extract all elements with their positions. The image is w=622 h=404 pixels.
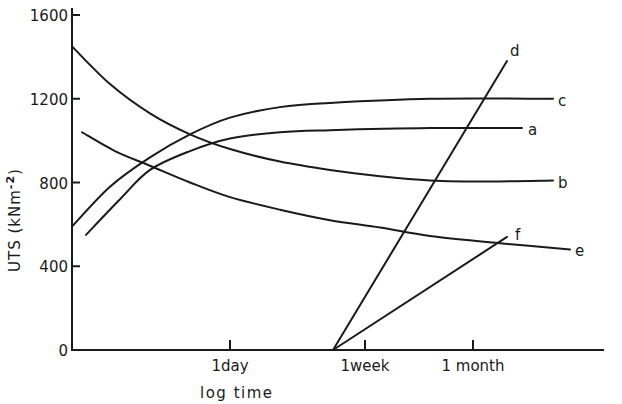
curve-d — [333, 61, 507, 350]
curve-label-d: d — [510, 42, 520, 60]
uts-chart: 040080012001600 1day1week1 month abcdef … — [0, 0, 622, 404]
curve-label-e: e — [575, 242, 584, 260]
y-tick-label: 1600 — [30, 7, 68, 25]
curve-label-f: f — [515, 226, 521, 244]
curve-e — [82, 132, 570, 249]
y-tick-label: 1200 — [30, 91, 68, 109]
y-axis-title: UTS (kNm-2) — [4, 168, 24, 272]
axes — [71, 8, 604, 351]
curve-label-c: c — [558, 92, 566, 110]
x-tick-label: 1 month — [442, 357, 505, 375]
curve-label-b: b — [558, 174, 568, 192]
y-tick-label: 0 — [58, 342, 68, 360]
y-tick-label: 400 — [39, 258, 68, 276]
curve-labels: abcdef — [510, 42, 584, 260]
series-lines — [72, 46, 570, 350]
y-tick-label: 800 — [39, 175, 68, 193]
x-axis-title: log time — [200, 384, 274, 402]
x-tick-label: 1week — [341, 357, 390, 375]
curve-label-a: a — [528, 121, 537, 139]
curve-f — [333, 237, 507, 350]
x-ticks: 1day1week1 month — [211, 340, 504, 375]
x-tick-label: 1day — [211, 357, 248, 375]
